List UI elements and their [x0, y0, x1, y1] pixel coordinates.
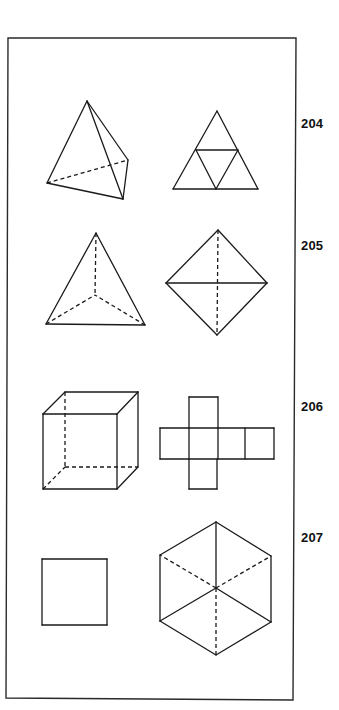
cube-net-shape [160, 397, 274, 489]
visible-edge [160, 588, 216, 621]
figure-label-205: 205 [301, 239, 323, 252]
tetrahedron-net-shape [173, 111, 258, 189]
figure-row-204 [47, 101, 258, 199]
visible-edge [216, 522, 271, 556]
visible-edge [216, 588, 271, 622]
visible-edge [216, 622, 271, 655]
visible-edge [43, 392, 65, 414]
visible-edge [87, 101, 128, 160]
visible-edge [217, 283, 267, 335]
visible-edge [87, 101, 123, 199]
visible-edge [166, 230, 218, 283]
tetrahedron-top-view-shape [46, 233, 145, 325]
visible-edge [123, 160, 128, 199]
octahedron-shape [166, 230, 267, 335]
cube-shape [43, 392, 138, 489]
cube-vertex-view-hexagon-shape [160, 522, 271, 655]
figure-frame [6, 38, 296, 700]
visible-edge [47, 183, 123, 199]
visible-edge [160, 522, 216, 555]
visible-edge [117, 467, 138, 489]
figure-row-206 [43, 392, 274, 489]
figure-label-204: 204 [301, 117, 323, 130]
visible-edge [216, 150, 238, 189]
visible-edge [46, 324, 145, 325]
figure-canvas [0, 0, 339, 710]
visible-edge [47, 101, 87, 183]
figure-row-205 [46, 230, 267, 335]
figure-label-207: 207 [301, 531, 323, 544]
visible-edge [117, 392, 138, 414]
hidden-edge [216, 556, 271, 588]
figure-row-207 [42, 522, 271, 655]
figure-label-206: 206 [301, 400, 323, 413]
visible-edge [160, 621, 216, 655]
visible-edge [196, 150, 216, 189]
hidden-edge [95, 233, 96, 295]
hidden-edge [43, 467, 65, 489]
visible-edge [96, 233, 145, 325]
shapes-layer [42, 101, 274, 655]
visible-edge [218, 230, 267, 283]
tetrahedron-oblique-shape [47, 101, 128, 199]
hidden-edge [160, 555, 216, 588]
cube-face-view-square-shape [42, 559, 107, 625]
visible-edge [46, 233, 96, 324]
visible-edge [166, 283, 217, 335]
hidden-edge [217, 230, 218, 335]
